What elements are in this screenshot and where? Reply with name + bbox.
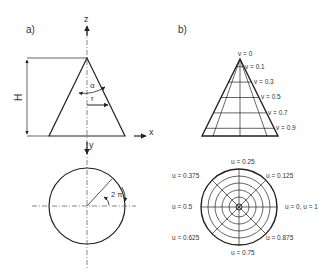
rotation-arc-icon <box>104 197 109 205</box>
panel-b-label: b) <box>178 24 187 35</box>
v-label-0: v = 0 <box>238 50 253 57</box>
rotation-angle-label: 2 π <box>111 190 122 199</box>
u-label-0-125: u = 0.125 <box>266 172 294 179</box>
v-label-0-3: v = 0.3 <box>254 78 274 85</box>
cone-parametrization-diagram: a) z x H α r y 2 π b) <box>0 0 332 274</box>
v-label-0-7: v = 0.7 <box>268 109 288 116</box>
radius-label: r <box>91 94 94 103</box>
u-label-0-75: u = 0.75 <box>231 249 255 256</box>
v-label-0-9: v = 0.9 <box>276 124 296 131</box>
u-label-0-5: u = 0.5 <box>172 203 192 210</box>
x-axis-label: x <box>149 127 154 137</box>
height-label: H <box>13 94 24 101</box>
u-label-0-375: u = 0.375 <box>172 172 200 179</box>
u-label-0-25: u = 0.25 <box>231 158 255 165</box>
angle-alpha-label: α <box>90 81 95 90</box>
panel-b: b) v = 0 v = 0.1 v = 0.3 v = 0.5 v = 0.7… <box>172 24 318 256</box>
u-label-0-875: u = 0.875 <box>266 234 294 241</box>
u-label-0-and-1: u = 0, u = 1 <box>285 203 318 210</box>
z-axis-label: z <box>84 14 89 24</box>
panel-a: a) z x H α r y 2 π <box>13 14 154 270</box>
v-label-0-5: v = 0.5 <box>261 93 281 100</box>
y-axis-label: y <box>89 140 94 150</box>
u-label-0-625: u = 0.625 <box>172 234 200 241</box>
v-label-0-1: v = 0.1 <box>245 63 265 70</box>
panel-a-label: a) <box>26 24 35 35</box>
